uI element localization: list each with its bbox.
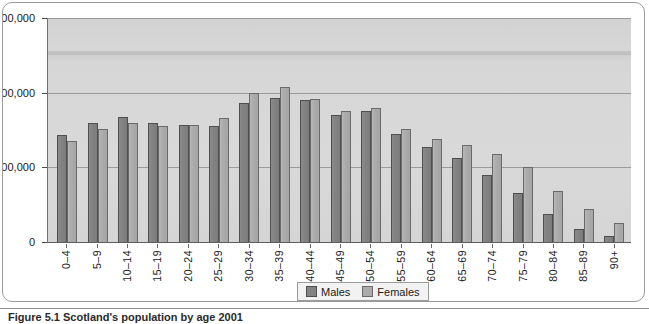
bar-males bbox=[391, 134, 401, 242]
x-axis-group: 10–14 bbox=[112, 244, 142, 302]
bar-males bbox=[422, 147, 432, 242]
legend-label: Females bbox=[377, 286, 419, 298]
x-axis-tick-label: 45–49 bbox=[334, 250, 346, 282]
bar-group bbox=[113, 18, 143, 242]
bar-females bbox=[310, 99, 320, 242]
bar-group bbox=[82, 18, 112, 242]
figure-caption: Figure 5.1 Scotland's population by age … bbox=[8, 311, 243, 323]
x-axis-group: 90+ bbox=[599, 244, 629, 302]
legend-item: Females bbox=[362, 286, 419, 298]
bar-females bbox=[371, 108, 381, 242]
bar-males bbox=[270, 98, 280, 242]
bar-males bbox=[88, 123, 98, 242]
bar-females bbox=[462, 145, 472, 242]
chart-plot-area bbox=[47, 18, 631, 243]
x-axis-tick-mark bbox=[310, 244, 311, 248]
x-axis-tick-label: 85–89 bbox=[577, 250, 589, 282]
x-axis-group: 15–19 bbox=[142, 244, 172, 302]
x-axis-group: 35–39 bbox=[264, 244, 294, 302]
x-axis-tick-label: 90+ bbox=[608, 250, 620, 269]
bar-males bbox=[118, 117, 128, 242]
bar-group bbox=[265, 18, 295, 242]
x-axis-tick-mark bbox=[218, 244, 219, 248]
y-axis-tick-mark bbox=[42, 18, 47, 19]
bar-males bbox=[179, 125, 189, 242]
x-axis-tick-label: 35–39 bbox=[273, 250, 285, 282]
bar-females bbox=[158, 126, 168, 242]
x-axis-group: 20–24 bbox=[173, 244, 203, 302]
bar-females bbox=[523, 167, 533, 242]
bar-females bbox=[341, 111, 351, 242]
legend-swatch-females bbox=[362, 286, 373, 297]
x-axis-tick-mark bbox=[492, 244, 493, 248]
y-axis-tick-mark bbox=[42, 93, 47, 94]
bar-group bbox=[508, 18, 538, 242]
x-axis-tick-mark bbox=[523, 244, 524, 248]
bar-females bbox=[614, 223, 624, 242]
bar-females bbox=[98, 129, 108, 242]
legend-item: Males bbox=[306, 286, 350, 298]
bar-group bbox=[52, 18, 82, 242]
bar-males bbox=[148, 123, 158, 242]
x-axis-tick-mark bbox=[66, 244, 67, 248]
bar-females bbox=[128, 123, 138, 242]
figure-caption-bar: Figure 5.1 Scotland's population by age … bbox=[0, 308, 649, 324]
bar-group bbox=[568, 18, 598, 242]
bar-females bbox=[219, 118, 229, 242]
bar-group bbox=[386, 18, 416, 242]
x-axis-tick-label: 15–19 bbox=[151, 250, 163, 282]
x-axis-tick-label: 30–34 bbox=[243, 250, 255, 282]
x-axis-tick-mark bbox=[127, 244, 128, 248]
x-axis-tick-label: 10–14 bbox=[121, 250, 133, 282]
bar-group bbox=[204, 18, 234, 242]
x-axis-tick-label: 20–24 bbox=[182, 250, 194, 282]
bar-females bbox=[249, 93, 259, 242]
bar-females bbox=[584, 209, 594, 242]
y-axis-tick-mark bbox=[42, 242, 47, 243]
x-axis-tick-mark bbox=[188, 244, 189, 248]
bar-males bbox=[57, 135, 67, 242]
y-axis-tick-label: 200,000 bbox=[2, 87, 35, 99]
x-axis-tick-label: 55–59 bbox=[395, 250, 407, 282]
x-axis-tick-label: 65–69 bbox=[456, 250, 468, 282]
bar-series-container bbox=[48, 18, 631, 242]
bar-group bbox=[538, 18, 568, 242]
bar-males bbox=[543, 214, 553, 242]
bar-group bbox=[234, 18, 264, 242]
x-axis-tick-label: 40–44 bbox=[304, 250, 316, 282]
bar-group bbox=[143, 18, 173, 242]
bar-females bbox=[189, 125, 199, 242]
legend-label: Males bbox=[321, 286, 350, 298]
x-axis-tick-label: 5–9 bbox=[91, 250, 103, 269]
x-axis-group: 85–89 bbox=[568, 244, 598, 302]
bar-males bbox=[574, 229, 584, 242]
x-axis-group: 25–29 bbox=[203, 244, 233, 302]
bar-males bbox=[452, 158, 462, 242]
x-axis-tick-mark bbox=[249, 244, 250, 248]
bar-females bbox=[553, 191, 563, 242]
bar-males bbox=[331, 115, 341, 242]
bar-males bbox=[482, 175, 492, 242]
x-axis-tick-label: 60–64 bbox=[425, 250, 437, 282]
x-axis-group: 5–9 bbox=[81, 244, 111, 302]
x-axis-tick-mark bbox=[97, 244, 98, 248]
bar-males bbox=[239, 103, 249, 242]
x-axis-group: 65–69 bbox=[446, 244, 476, 302]
x-axis-group: 75–79 bbox=[507, 244, 537, 302]
x-axis-group: 0–4 bbox=[51, 244, 81, 302]
bar-males bbox=[209, 126, 219, 242]
bar-males bbox=[361, 111, 371, 242]
x-axis-tick-mark bbox=[340, 244, 341, 248]
bar-females bbox=[401, 129, 411, 242]
bar-males bbox=[604, 236, 614, 242]
y-axis-tick-mark bbox=[42, 167, 47, 168]
bar-group bbox=[417, 18, 447, 242]
x-axis-tick-label: 75–79 bbox=[517, 250, 529, 282]
x-axis-tick-mark bbox=[583, 244, 584, 248]
x-axis-group: 70–74 bbox=[477, 244, 507, 302]
x-axis-tick-label: 0–4 bbox=[60, 250, 72, 269]
y-axis-tick-label: 300,000 bbox=[2, 12, 35, 24]
legend-swatch-males bbox=[306, 286, 317, 297]
bar-males bbox=[513, 193, 523, 242]
x-axis-tick-label: 70–74 bbox=[486, 250, 498, 282]
